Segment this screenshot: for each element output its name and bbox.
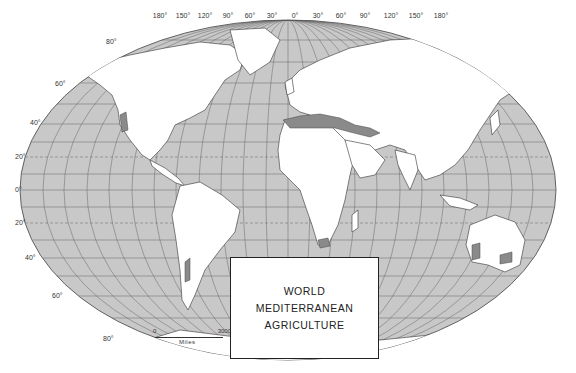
lat-label: 40° — [25, 254, 36, 261]
lon-label: 60° — [245, 12, 256, 19]
scale-unit: Miles — [179, 339, 196, 345]
lon-label: 120° — [384, 12, 398, 19]
lon-label: 90° — [223, 12, 234, 19]
lat-label: 20° — [15, 153, 26, 160]
lat-label: 20° — [15, 219, 26, 226]
lat-label: 80° — [106, 38, 117, 45]
scale-start: 0 — [153, 328, 156, 334]
scale-bar: 0 3000 Miles — [153, 328, 225, 348]
lat-label: 0° — [15, 186, 22, 193]
scale-end: 3000 — [218, 328, 231, 334]
map-title-box: WORLD MEDITERRANEAN AGRICULTURE — [230, 257, 379, 359]
lon-label: 30° — [313, 12, 324, 19]
region-chile — [185, 258, 190, 282]
lat-label: 60° — [55, 80, 66, 87]
lat-label: 40° — [30, 119, 41, 126]
region-southwest-australia — [472, 243, 480, 260]
title-line-1: WORLD — [284, 283, 326, 300]
title-line-3: AGRICULTURE — [265, 317, 345, 334]
lon-label: 0° — [292, 12, 299, 19]
lon-label: 30° — [267, 12, 278, 19]
lon-label: 120° — [198, 12, 212, 19]
lon-label: 90° — [360, 12, 371, 19]
lat-label: 60° — [52, 292, 63, 299]
lon-label: 150° — [409, 12, 423, 19]
lon-label: 180° — [434, 12, 448, 19]
lon-label: 150° — [176, 12, 190, 19]
lat-label: 80° — [103, 335, 114, 342]
lon-label: 180° — [153, 12, 167, 19]
scale-line — [155, 337, 223, 338]
title-line-2: MEDITERRANEAN — [256, 300, 354, 317]
lon-label: 60° — [336, 12, 347, 19]
region-south-africa — [318, 238, 330, 248]
